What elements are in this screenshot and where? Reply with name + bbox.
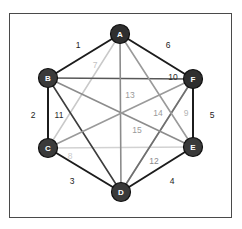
edge-weight-label: 10 — [168, 72, 178, 82]
graph-node-f[interactable]: F — [184, 70, 203, 89]
graph-edge — [121, 147, 193, 192]
edge-weight-label: 7 — [93, 60, 98, 70]
edge-weight-label: 4 — [170, 176, 175, 186]
edge-weight-label: 3 — [70, 176, 75, 186]
edge-weight-label: 6 — [166, 40, 171, 50]
node-label: C — [45, 144, 51, 153]
edge-weight-label: 5 — [210, 110, 215, 120]
graph-node-b[interactable]: B — [39, 69, 58, 88]
graph-node-e[interactable]: E — [184, 138, 203, 157]
edge-weight-label: 2 — [31, 110, 36, 120]
graph-edge — [48, 34, 120, 78]
node-label: F — [191, 75, 196, 84]
graph-node-c[interactable]: C — [39, 139, 58, 158]
edge-weight-label: 11 — [55, 110, 64, 120]
node-label: B — [45, 74, 51, 83]
edge-weight-label: 15 — [132, 125, 142, 135]
edge-weight-label: 14 — [153, 108, 163, 118]
edge-weight-label: 1 — [76, 40, 81, 50]
edge-weight-label: 8 — [68, 151, 73, 161]
edge-weight-label: 12 — [149, 156, 159, 166]
graph-edge — [120, 34, 193, 79]
graph-node-a[interactable]: A — [111, 25, 130, 44]
graph-node-d[interactable]: D — [112, 183, 131, 202]
node-label: E — [190, 143, 196, 152]
node-label: A — [117, 30, 123, 39]
graph-edge — [48, 148, 121, 192]
graph-canvas: 123456789101112131415 ABCDEF — [0, 0, 242, 229]
graph-figure: 123456789101112131415 ABCDEF — [0, 0, 242, 229]
edge-weight-label: 9 — [184, 108, 189, 118]
edge-weight-label: 13 — [125, 90, 135, 100]
edge-lines-group — [48, 34, 193, 192]
node-label: D — [118, 188, 124, 197]
